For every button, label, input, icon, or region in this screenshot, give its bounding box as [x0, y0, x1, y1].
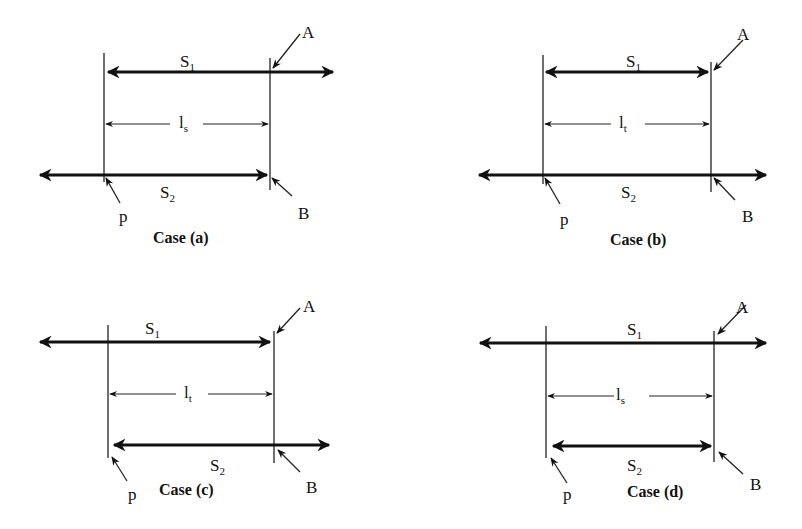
case-caption: Case (d) [627, 483, 683, 501]
point-b-label: B [750, 475, 761, 494]
pointer-arrow-a [277, 308, 300, 333]
case-b: S1 S2 lt A B p Case (b) [479, 25, 766, 249]
point-a-label: A [303, 297, 316, 316]
s1-label: S1 [180, 52, 195, 73]
case-a: S1 S2 ls A B p Case (a) [40, 23, 333, 247]
pointer-arrow-p [106, 178, 120, 203]
point-p-label: p [563, 485, 572, 504]
point-a-label: A [737, 25, 750, 44]
case-caption: Case (b) [610, 231, 666, 249]
s2-label: S2 [621, 183, 636, 204]
dimension-label: lt [619, 113, 627, 134]
point-b-label: B [306, 478, 317, 497]
pointer-arrow-b [278, 450, 300, 472]
point-a-label: A [302, 23, 315, 42]
pointer-arrow-a [714, 40, 743, 70]
point-a-label: A [736, 298, 749, 317]
pointer-arrow-b [272, 178, 292, 196]
s1-label: S1 [145, 319, 160, 340]
case-caption: Case (c) [159, 481, 214, 499]
s2-label: S2 [210, 456, 225, 477]
s2-label: S2 [160, 183, 175, 204]
s1-label: S1 [626, 52, 641, 73]
pointer-arrow-b [714, 178, 735, 200]
diagram-canvas: S1 S2 ls A B p Case (a) S1 S2 lt A B p C… [0, 0, 802, 529]
case-d: S1 S2 ls A B p Case (d) [480, 298, 766, 504]
case-caption: Case (a) [153, 229, 209, 247]
case-c: S1 S2 lt A B p Case (c) [40, 297, 329, 504]
point-b-label: B [298, 204, 309, 223]
point-p-label: p [119, 207, 128, 226]
pointer-arrow-b [719, 452, 743, 474]
point-b-label: B [742, 207, 753, 226]
pointer-arrow-p [551, 458, 567, 483]
s2-label: S2 [627, 456, 642, 477]
pointer-arrow-p [545, 178, 560, 204]
s1-label: S1 [627, 320, 642, 341]
pointer-arrow-p [112, 457, 127, 481]
dimension-label: ls [179, 113, 188, 134]
point-p-label: p [560, 210, 569, 229]
pointer-arrow-a [273, 34, 300, 68]
dimension-label: lt [184, 383, 192, 404]
point-p-label: p [128, 485, 137, 504]
dimension-label: ls [616, 385, 625, 406]
